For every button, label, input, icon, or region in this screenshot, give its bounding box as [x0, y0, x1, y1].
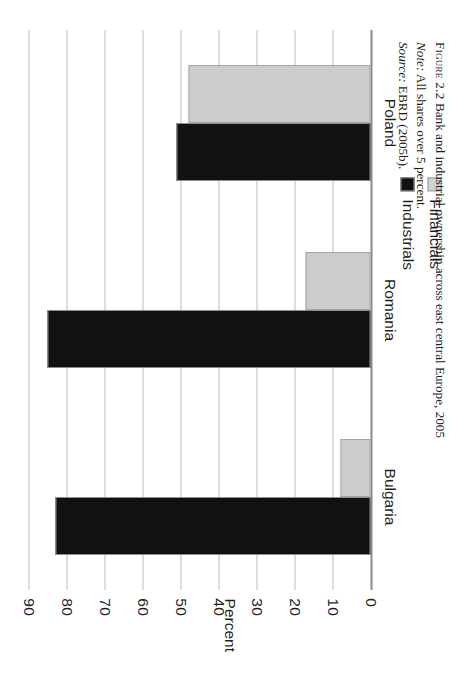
bar-romania-industrials[interactable]: [47, 310, 370, 368]
value-axis-title: Percent: [220, 599, 238, 652]
bar-group-poland: Poland: [28, 65, 370, 181]
figure-caption: Figure 2.2 Bank and industrial ownership…: [392, 42, 448, 672]
caption-source-line: Source: EBRD (2005b).: [392, 42, 411, 672]
caption-note-label: Note:: [413, 42, 428, 71]
value-axis-tick-80: 80: [57, 598, 75, 616]
bar-bulgaria-financials[interactable]: [340, 439, 370, 497]
caption-figure-tag: Figure 2.2: [432, 42, 447, 100]
bar-chart: 0102030405060708090PolandRomaniaBulgaria: [28, 30, 370, 590]
value-axis-tick-50: 50: [171, 598, 189, 616]
caption-figure-title: Bank and industrial ownership across eas…: [432, 103, 447, 438]
caption-source-label: Source:: [395, 42, 410, 83]
value-axis-tick-90: 90: [19, 598, 37, 616]
bar-group-bulgaria: Bulgaria: [28, 439, 370, 555]
figure-stage: 0102030405060708090PolandRomaniaBulgaria…: [0, 0, 449, 698]
bar-poland-financials[interactable]: [188, 65, 370, 123]
caption-title-line: Figure 2.2 Bank and industrial ownership…: [429, 42, 448, 672]
caption-note-line: Note: All shares over 5 percent.: [411, 42, 430, 672]
value-axis-tick-20: 20: [285, 598, 303, 616]
value-axis-tick-70: 70: [95, 598, 113, 616]
value-axis-tick-60: 60: [133, 598, 151, 616]
bar-bulgaria-industrials[interactable]: [55, 497, 370, 555]
bar-romania-financials[interactable]: [305, 252, 370, 310]
caption-source-text: EBRD (2005b).: [395, 86, 410, 170]
value-axis-tick-10: 10: [323, 598, 341, 616]
bar-poland-industrials[interactable]: [176, 123, 370, 181]
caption-note-text: All shares over 5 percent.: [413, 74, 428, 209]
bar-group-romania: Romania: [28, 252, 370, 368]
chart-plot-area: 0102030405060708090PolandRomaniaBulgaria…: [0, 0, 449, 698]
value-axis-tick-30: 30: [247, 598, 265, 616]
value-axis-tick-0: 0: [361, 598, 379, 607]
